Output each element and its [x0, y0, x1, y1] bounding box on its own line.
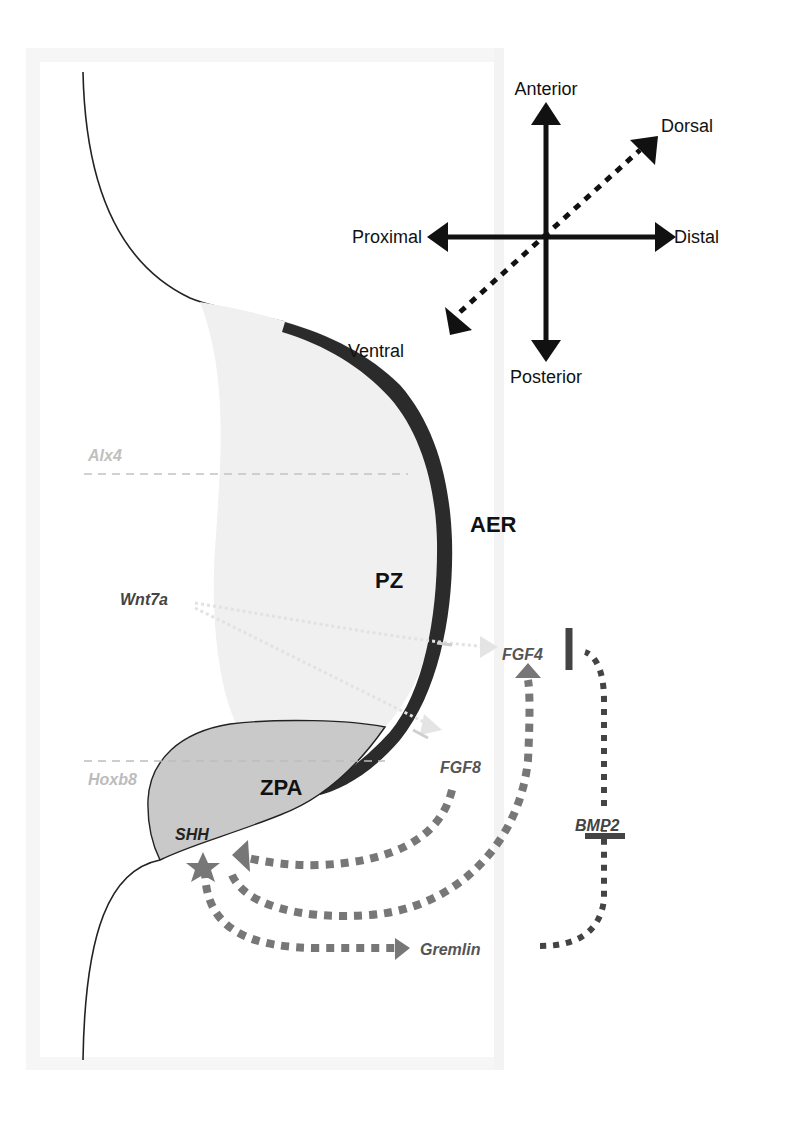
label-dorsal: Dorsal	[661, 116, 713, 136]
limb-bud-diagram: Anterior Posterior Proximal Distal Dorsa…	[0, 0, 800, 1147]
label-hoxb8: Hoxb8	[88, 771, 137, 788]
gremlin-inhibits-bmp2-line	[540, 830, 604, 946]
label-anterior: Anterior	[514, 79, 577, 99]
label-shh: SHH	[175, 826, 209, 843]
posterior-arrow-icon	[531, 340, 561, 362]
label-aer: AER	[470, 512, 517, 537]
label-posterior: Posterior	[510, 367, 582, 387]
label-bmp2: BMP2	[575, 817, 620, 834]
label-gremlin: Gremlin	[420, 941, 481, 958]
label-ventral: Ventral	[348, 341, 404, 361]
bmp2-inhibits-fgf4-line	[585, 652, 604, 806]
distal-arrow-icon	[655, 222, 676, 252]
label-proximal: Proximal	[352, 227, 422, 247]
label-fgf8: FGF8	[440, 759, 481, 776]
fgf4-arrowhead	[515, 663, 541, 678]
label-fgf4: FGF4	[502, 646, 543, 663]
label-zpa: ZPA	[260, 775, 302, 800]
anterior-arrow-icon	[531, 102, 561, 125]
label-distal: Distal	[674, 227, 719, 247]
label-pz: PZ	[375, 568, 403, 593]
label-wnt7a: Wnt7a	[120, 591, 168, 608]
dorsal-arrow-icon	[630, 136, 658, 165]
label-alx4: Alx4	[87, 447, 122, 464]
